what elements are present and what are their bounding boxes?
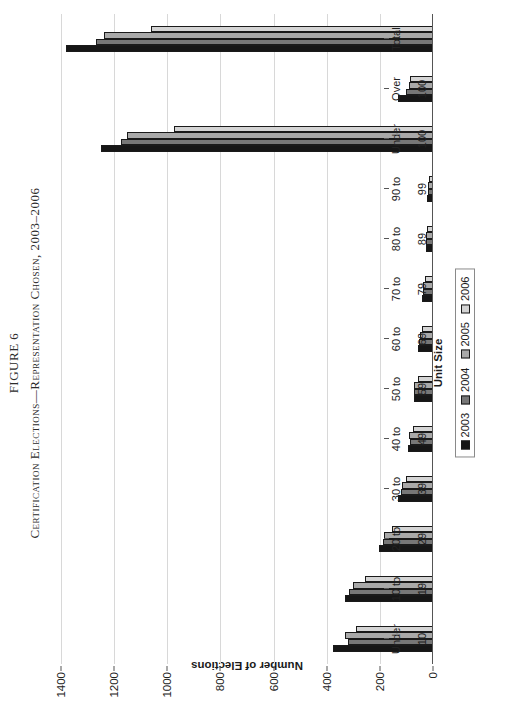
y-tick-mark [114, 666, 115, 671]
bar-group [61, 514, 433, 564]
bar-group [61, 214, 433, 264]
y-tick-mark [326, 666, 327, 671]
x-tick-label: 10 to19 [390, 564, 430, 614]
plot-area: Number of Elections 14001200100080060040… [61, 14, 433, 664]
bar-2003[interactable] [66, 46, 433, 53]
legend-swatch-icon [461, 304, 470, 313]
bar-group [61, 164, 433, 214]
figure-number: FIGURE 6 [6, 0, 22, 726]
bar-group [61, 464, 433, 514]
x-tick-label: 40 to49 [390, 414, 430, 464]
bar-group [61, 614, 433, 664]
legend-label: 2006 [459, 277, 471, 301]
bar-group [61, 14, 433, 64]
x-tick-label: Over100 [390, 64, 430, 114]
legend-item[interactable]: 2004 [459, 368, 471, 404]
y-tick-label: 1400 [55, 672, 67, 698]
bar-groups [61, 14, 433, 664]
x-tick-label: 20 to29 [390, 514, 430, 564]
chart-figure: FIGURE 6 Certification Elections—Represe… [0, 0, 508, 726]
y-axis-ticks: 1400120010008006004002000 [61, 666, 433, 700]
y-tick-label: 1000 [161, 672, 173, 698]
y-tick-mark [379, 666, 380, 671]
chart-legend: 2003200420052006 [455, 269, 475, 458]
x-tick-label: 80 to89 [390, 214, 430, 264]
y-tick-mark [273, 666, 274, 671]
legend-label: 2004 [459, 368, 471, 392]
legend-swatch-icon [461, 395, 470, 404]
x-tick-label: 60 to69 [390, 314, 430, 364]
y-tick-mark [61, 666, 62, 671]
legend-item[interactable]: 2005 [459, 322, 471, 358]
legend-item[interactable]: 2006 [459, 277, 471, 313]
legend-label: 2005 [459, 322, 471, 346]
bar-group [61, 564, 433, 614]
x-tick-label: Total [390, 14, 430, 64]
legend-swatch-icon [461, 440, 470, 449]
y-tick-label: 400 [321, 672, 333, 691]
bar-2003[interactable] [101, 146, 433, 153]
y-tick-label: 1200 [108, 672, 120, 698]
bar-group [61, 314, 433, 364]
figure-title-block: FIGURE 6 Certification Elections—Represe… [6, 0, 43, 726]
bar-2004[interactable] [121, 139, 433, 146]
bar-group [61, 364, 433, 414]
legend-swatch-icon [461, 350, 470, 359]
bar-2004[interactable] [96, 39, 433, 46]
x-tick-label: Under100 [390, 114, 430, 164]
bar-group [61, 414, 433, 464]
x-axis-tick-labels: Under1010 to1920 to2930 to3940 to4950 to… [390, 14, 430, 664]
figure-caption: Certification Elections—Representation C… [27, 0, 43, 726]
x-axis-label: Unit Size [432, 0, 444, 726]
legend-label: 2003 [459, 413, 471, 437]
x-tick-label: 70 to79 [390, 264, 430, 314]
y-tick-label: 800 [214, 672, 226, 691]
bar-group [61, 264, 433, 314]
y-tick-mark [220, 666, 221, 671]
legend-item[interactable]: 2003 [459, 413, 471, 449]
y-tick-label: 200 [374, 672, 386, 691]
y-tick-mark [167, 666, 168, 671]
bar-group [61, 114, 433, 164]
y-tick-label: 600 [268, 672, 280, 691]
bar-group [61, 64, 433, 114]
x-tick-label: 90 to99 [390, 164, 430, 214]
x-tick-label: 50 to59 [390, 364, 430, 414]
x-tick-label: 30 to39 [390, 464, 430, 514]
figure-page: FIGURE 6 Certification Elections—Represe… [0, 0, 508, 726]
x-tick-label: Under10 [390, 614, 430, 664]
